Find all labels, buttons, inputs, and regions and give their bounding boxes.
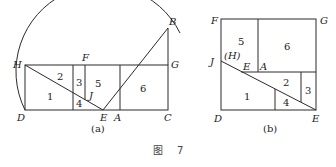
region-6: 6 [284,41,290,52]
label-f: F [81,52,90,63]
label-j: J [208,56,215,67]
figure-b: F G J (H) E A D E 1 2 3 4 5 6 (b) [208,15,328,134]
label-h: H [12,59,22,70]
label-a: A [259,61,267,72]
caption-prefix: 图 [153,145,163,156]
figure-7: H F B G D E A C J 1 2 3 4 5 6 (a) F G J … [0,0,336,167]
region-2: 2 [57,71,63,82]
label-d: D [213,113,222,124]
label-c: C [164,112,172,123]
region-6: 6 [140,83,146,94]
label-d: D [16,112,25,123]
line-eb [103,28,168,110]
region-4: 4 [76,98,82,109]
sublabel-a: (a) [91,123,105,134]
label-b: B [168,16,176,27]
label-f: F [210,15,219,26]
region-5: 5 [95,78,101,89]
arc [16,0,180,110]
label-e: E [99,112,108,123]
region-3: 3 [305,85,311,96]
line-he [25,65,103,110]
label-g: G [320,15,328,26]
label-h: (H) [224,50,241,61]
region-1: 1 [47,91,53,102]
region-4: 4 [283,97,289,108]
region-3: 3 [76,77,82,88]
label-a: A [113,112,121,123]
region-5: 5 [238,36,244,47]
line-je [221,61,316,110]
square-fged [221,19,316,110]
region-1: 1 [244,91,250,102]
caption-number: 7 [177,145,183,156]
figure-a: H F B G D E A C J 1 2 3 4 5 6 (a) [12,0,180,134]
sublabel-b: (b) [263,123,277,134]
label-e-top: E [242,61,251,72]
label-j: J [87,90,94,101]
label-g: G [171,59,179,70]
label-e: E [311,113,320,124]
region-2: 2 [283,77,289,88]
